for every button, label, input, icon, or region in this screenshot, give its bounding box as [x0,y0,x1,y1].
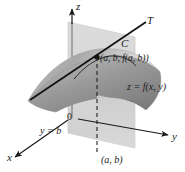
label-tangent-point: (a, b, f(a, b)) [100,54,149,64]
label-plane-equation: y = b [40,126,61,136]
figure-tangent-plane-diagram: z T C (a, b, f(a, b)) z = f(x, y) 0 y = … [0,0,185,172]
plane-front-wedge [97,95,135,148]
axis-label-origin: 0 [67,112,72,122]
label-base-point: (a, b) [101,155,123,165]
label-surface-equation: z = f(x, y) [127,82,166,92]
axis-label-z: z [76,1,80,12]
axis-label-y: y [172,131,177,142]
label-tangent-line-t: T [147,15,153,26]
label-curve-c: C [121,38,128,49]
axis-label-x: x [7,152,12,163]
